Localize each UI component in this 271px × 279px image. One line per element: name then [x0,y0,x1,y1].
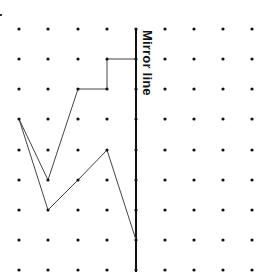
grid-dot [17,178,20,181]
grid-dot [46,27,49,30]
grid-dot [46,87,49,90]
grid-dot [250,148,253,151]
grid-dot [17,87,20,90]
grid-dot [163,27,166,30]
grid-dot [192,178,195,181]
grid-dot [46,208,49,211]
grid-dot [46,148,49,151]
grid-dot [221,148,224,151]
grid-dot [134,148,137,151]
grid-dot [221,268,224,271]
grid-dot [163,57,166,60]
grid-dot [221,27,224,30]
grid-dot [221,178,224,181]
grid-dot [163,268,166,271]
grid-dot [17,57,20,60]
grid-dot [105,87,108,90]
grid-dot [134,238,137,241]
grid-dot [17,268,20,271]
grid-dot [46,117,49,120]
grid-dot [46,268,49,271]
grid-dot [192,148,195,151]
grid-dot [46,178,49,181]
grid-dot [46,238,49,241]
grid-dot [163,178,166,181]
grid-dot [250,57,253,60]
grid-dot [105,178,108,181]
grid-dot [250,268,253,271]
grid-dot [134,117,137,120]
grid-dot [163,238,166,241]
grid-dot [17,238,20,241]
grid-dot [192,57,195,60]
grid-dot [76,27,79,30]
grid-dot [221,57,224,60]
mirror-line-label: Mirror line [140,30,155,96]
grid-dot [192,27,195,30]
grid-dot [76,57,79,60]
grid-dot [105,117,108,120]
grid-dot [46,57,49,60]
grid-dot [163,208,166,211]
grid-dot [163,148,166,151]
grid-dot [105,238,108,241]
grid-dot [163,87,166,90]
grid-dot [221,87,224,90]
grid-dot [105,148,108,151]
grid-dot [192,238,195,241]
grid-dot [76,148,79,151]
grid-dot [192,117,195,120]
grid-dot [163,117,166,120]
grid-dot [134,27,137,30]
grid-dot [134,178,137,181]
grid-dot [105,268,108,271]
grid-dot [17,27,20,30]
grid-dot [17,208,20,211]
grid-dot [76,238,79,241]
diagram-canvas [0,0,271,279]
grid-dot [105,57,108,60]
grid-dot [105,27,108,30]
stray-mark [0,14,2,16]
grid-dot [17,148,20,151]
grid-dot [250,117,253,120]
grid-dot [192,268,195,271]
grid-dot [76,87,79,90]
grid-dot [134,268,137,271]
grid-dot [250,87,253,90]
grid-dot [250,27,253,30]
grid-dot [192,87,195,90]
grid-dot [76,268,79,271]
grid-dot [221,117,224,120]
grid-dot [250,208,253,211]
grid-dot [17,117,20,120]
grid-dot [192,208,195,211]
grid-dot [221,238,224,241]
grid-dot [250,238,253,241]
grid-dot [134,87,137,90]
grid-dot [76,117,79,120]
grid-dot [134,57,137,60]
grid-dot [250,178,253,181]
grid-dot [134,208,137,211]
grid-dot [76,178,79,181]
grid-dot [105,208,108,211]
grid-dot [76,208,79,211]
grid-dot [221,208,224,211]
